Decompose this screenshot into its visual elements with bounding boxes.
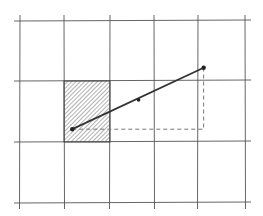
grid-vertical-line (20, 15, 21, 209)
grid-horizontal-line (14, 20, 251, 21)
grid-vertical-line (154, 15, 155, 209)
grid-lines (14, 15, 251, 209)
end-point (201, 66, 205, 70)
midpoint (137, 98, 141, 102)
grid-vertical-line (198, 15, 199, 209)
hatched-cell (64, 81, 110, 142)
grid-horizontal-line (14, 80, 251, 81)
grid-horizontal-line (14, 202, 251, 203)
start-point (70, 127, 74, 131)
grid-vertical-line (245, 15, 246, 209)
grid-horizontal-line (14, 141, 251, 142)
grid-diagram (0, 0, 263, 216)
